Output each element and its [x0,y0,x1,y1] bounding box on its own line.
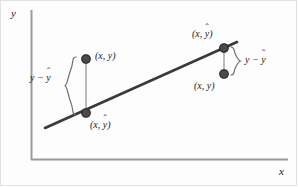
label-residual-left: y − y [30,73,51,83]
point-fitted-right [220,44,229,53]
label-fitted-right: (x, y) [192,29,213,39]
label-fitted-left: (x, y) [90,120,111,130]
label-residual-left-yhat: y [46,73,50,83]
point-observed-left [82,55,91,64]
label-residual-left-prefix: y − [30,72,46,83]
residual-brace-left [65,57,76,115]
label-observed-left: (x, y) [95,51,116,61]
plot-canvas [0,0,298,187]
label-residual-right-prefix: y − [245,54,261,65]
label-residual-right-yhat: y [261,55,265,65]
point-fitted-left [82,109,91,118]
x-axis-label: x [279,166,284,177]
y-axis-label: y [11,8,16,19]
regression-residual-figure: y x (x, y) (x, y) y − y (x, y) (x, y) y … [0,0,298,187]
label-residual-right: y − y [245,55,266,65]
label-fitted-left-suffix: ) [107,119,110,130]
label-observed-right: (x, y) [194,81,215,91]
point-observed-right [220,70,229,79]
label-fitted-right-yhat: y [205,29,209,39]
label-fitted-left-prefix: (x, [90,119,103,130]
residual-brace-right [231,47,240,75]
label-fitted-right-prefix: (x, [192,28,205,39]
label-fitted-left-yhat: y [103,120,107,130]
label-fitted-right-suffix: ) [209,28,212,39]
